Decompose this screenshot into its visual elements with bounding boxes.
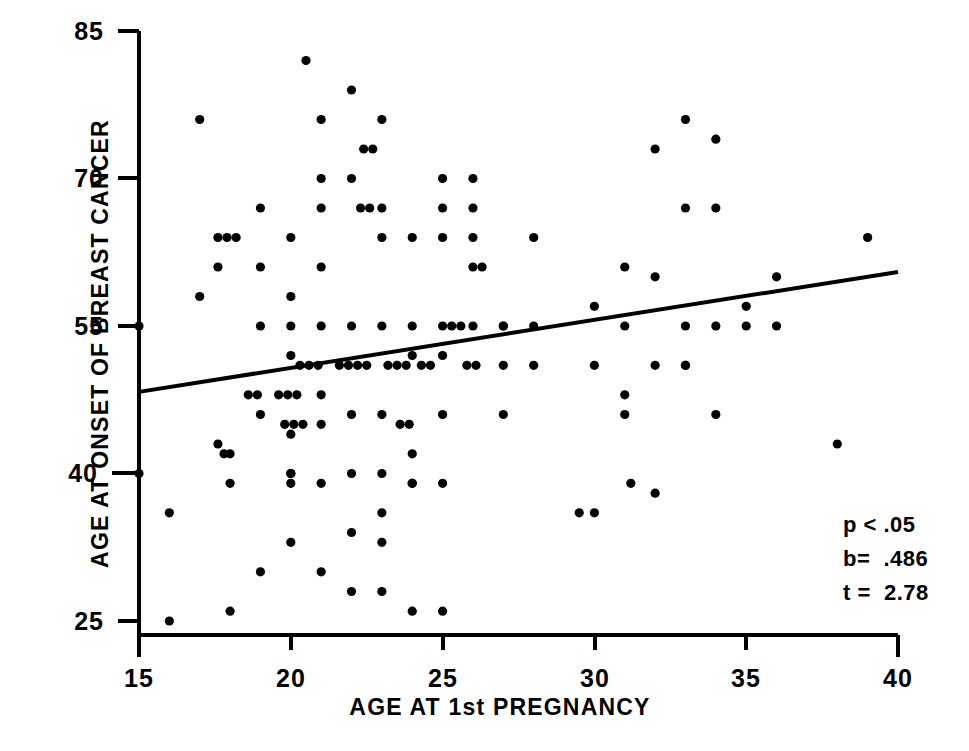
data-point [620,262,629,271]
data-point [356,203,365,212]
data-point [213,233,222,242]
data-point [377,469,386,478]
data-point [468,233,477,242]
data-point [742,302,751,311]
data-point [256,262,265,271]
data-point [286,469,295,478]
data-point [377,508,386,517]
regression-trendline [139,272,898,392]
data-point [347,321,356,330]
data-point [377,321,386,330]
data-point [344,361,353,370]
data-point [408,479,417,488]
statistics-annotation: p < .05 b= .486 t = 2.78 [843,508,929,610]
plot-canvas [0,0,969,751]
data-point [225,479,234,488]
data-point [462,361,471,370]
data-point [408,449,417,458]
data-point [256,203,265,212]
data-point [651,144,660,153]
data-point [347,587,356,596]
data-point [317,390,326,399]
data-point [195,115,204,124]
data-point [438,174,447,183]
data-point [711,203,720,212]
data-point [590,302,599,311]
data-point [368,144,377,153]
data-point [575,508,584,517]
x-tick-label-40: 40 [883,664,913,693]
data-point [651,272,660,281]
data-point [499,321,508,330]
data-point [438,410,447,419]
data-point [438,233,447,242]
data-point [165,616,174,625]
data-point [438,479,447,488]
data-point [681,115,690,124]
data-point [286,233,295,242]
data-point [256,321,265,330]
data-point [347,528,356,537]
data-point [438,351,447,360]
data-point [402,361,411,370]
data-point [347,410,356,419]
data-point [317,262,326,271]
data-point [256,567,265,576]
data-point [417,361,426,370]
data-point [499,361,508,370]
data-point [256,410,265,419]
data-point [408,351,417,360]
data-point [286,321,295,330]
data-point [286,538,295,547]
data-point [681,203,690,212]
data-point [681,321,690,330]
data-point [292,390,301,399]
data-point [347,85,356,94]
data-point [620,410,629,419]
p-value-text: p < .05 [843,508,929,542]
data-point [335,361,344,370]
data-point [383,361,392,370]
data-point [274,390,283,399]
data-point [165,508,174,517]
data-point [295,361,304,370]
data-point [289,420,298,429]
data-point [298,420,307,429]
data-point [468,321,477,330]
x-tick-label-25: 25 [428,664,458,693]
data-point [711,410,720,419]
data-point [317,174,326,183]
x-axis-ticks [139,635,898,657]
data-point [232,233,241,242]
data-point [347,174,356,183]
data-point [456,321,465,330]
data-point [253,390,262,399]
data-point [362,361,371,370]
data-point [711,135,720,144]
data-point [301,56,310,65]
data-point [438,203,447,212]
data-point [471,361,480,370]
data-point [314,361,323,370]
data-point [195,292,204,301]
data-point [438,321,447,330]
data-point [499,410,508,419]
data-point [529,361,538,370]
data-point [286,351,295,360]
data-point [426,361,435,370]
data-point [447,321,456,330]
data-point [286,479,295,488]
data-point [742,321,751,330]
data-point [468,174,477,183]
data-point [408,607,417,616]
data-point [365,203,374,212]
data-point [626,479,635,488]
data-point [377,233,386,242]
data-point [317,420,326,429]
data-point [468,203,477,212]
data-point [529,233,538,242]
data-point [438,607,447,616]
data-point [477,262,486,271]
y-tick-label-25: 25 [52,607,104,636]
data-point [377,115,386,124]
